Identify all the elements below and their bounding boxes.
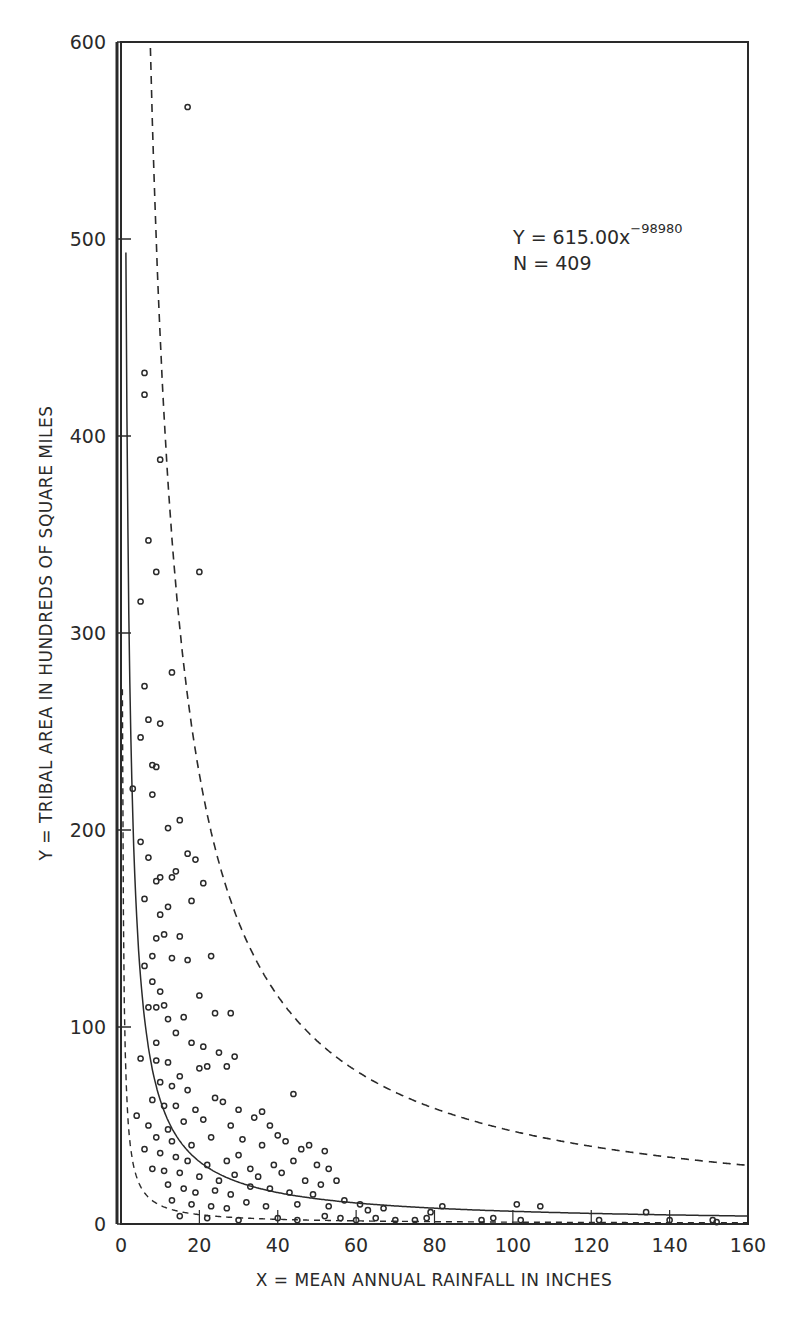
- data-point: [310, 1192, 315, 1197]
- data-points: [130, 104, 719, 1224]
- data-point: [193, 1190, 198, 1195]
- x-tick-label: 100: [495, 1234, 531, 1256]
- data-point: [267, 1123, 272, 1128]
- data-point: [596, 1217, 601, 1222]
- x-tick-label: 60: [344, 1234, 368, 1256]
- data-point: [314, 1162, 319, 1167]
- data-point: [224, 1206, 229, 1211]
- data-point: [162, 932, 167, 937]
- data-point: [514, 1202, 519, 1207]
- data-point: [181, 1015, 186, 1020]
- data-point: [189, 1143, 194, 1148]
- data-point: [224, 1158, 229, 1163]
- data-point: [142, 684, 147, 689]
- x-axis-ticks: 020406080100120140160: [115, 1210, 766, 1256]
- data-point: [177, 1214, 182, 1219]
- data-point: [146, 1123, 151, 1128]
- regression-fit-curve: [126, 253, 748, 1216]
- data-point: [424, 1215, 429, 1220]
- data-point: [173, 1154, 178, 1159]
- data-point: [158, 989, 163, 994]
- data-point: [295, 1202, 300, 1207]
- data-point: [169, 1139, 174, 1144]
- equation-label: Y = 615.00x−98980: [512, 221, 683, 248]
- data-point: [271, 1162, 276, 1167]
- data-point: [240, 1137, 245, 1142]
- data-point: [189, 898, 194, 903]
- data-point: [248, 1166, 253, 1171]
- data-point: [154, 1005, 159, 1010]
- x-tick-label: 80: [422, 1234, 446, 1256]
- data-point: [322, 1149, 327, 1154]
- data-point: [165, 1127, 170, 1132]
- data-point: [303, 1178, 308, 1183]
- x-tick-label: 160: [730, 1234, 766, 1256]
- data-point: [146, 1005, 151, 1010]
- data-point: [283, 1139, 288, 1144]
- data-point: [197, 569, 202, 574]
- x-tick-label: 120: [573, 1234, 609, 1256]
- data-point: [158, 457, 163, 462]
- y-axis-title: Y = TRIBAL AREA IN HUNDREDS OF SQUARE MI…: [36, 406, 56, 862]
- data-point: [263, 1204, 268, 1209]
- y-tick-label: 100: [70, 1016, 106, 1038]
- data-point: [538, 1204, 543, 1209]
- data-point: [169, 1084, 174, 1089]
- data-point: [193, 857, 198, 862]
- data-point: [228, 1011, 233, 1016]
- data-point: [228, 1123, 233, 1128]
- data-point: [205, 1215, 210, 1220]
- data-point: [209, 1204, 214, 1209]
- data-point: [138, 599, 143, 604]
- data-point: [326, 1166, 331, 1171]
- data-point: [220, 1099, 225, 1104]
- data-point: [197, 1174, 202, 1179]
- data-point: [197, 993, 202, 998]
- data-point: [338, 1215, 343, 1220]
- data-point: [212, 1095, 217, 1100]
- data-point: [154, 1040, 159, 1045]
- data-point: [165, 1060, 170, 1065]
- x-tick-label: 140: [651, 1234, 687, 1256]
- data-point: [165, 904, 170, 909]
- data-point: [158, 912, 163, 917]
- plot-frame: [121, 42, 748, 1224]
- data-point: [162, 1003, 167, 1008]
- data-point: [279, 1170, 284, 1175]
- data-point: [162, 1168, 167, 1173]
- data-point: [373, 1215, 378, 1220]
- data-point: [138, 839, 143, 844]
- data-point: [307, 1143, 312, 1148]
- data-point: [165, 1182, 170, 1187]
- y-tick-label: 400: [70, 425, 106, 447]
- data-point: [150, 792, 155, 797]
- data-point: [185, 1158, 190, 1163]
- upper-bound-curve: [150, 48, 748, 1165]
- data-point: [197, 1066, 202, 1071]
- data-point: [232, 1172, 237, 1177]
- data-point: [165, 1017, 170, 1022]
- y-tick-label: 300: [70, 622, 106, 644]
- data-point: [244, 1200, 249, 1205]
- data-point: [259, 1109, 264, 1114]
- data-point: [318, 1182, 323, 1187]
- data-point: [150, 979, 155, 984]
- data-point: [193, 1107, 198, 1112]
- data-point: [275, 1133, 280, 1138]
- data-point: [154, 569, 159, 574]
- data-point: [212, 1188, 217, 1193]
- data-point: [169, 1198, 174, 1203]
- data-point: [173, 869, 178, 874]
- data-point: [134, 1113, 139, 1118]
- data-point: [326, 1204, 331, 1209]
- data-point: [291, 1091, 296, 1096]
- data-point: [209, 1135, 214, 1140]
- data-point: [142, 896, 147, 901]
- data-point: [189, 1040, 194, 1045]
- data-point: [142, 392, 147, 397]
- data-point: [365, 1208, 370, 1213]
- data-point: [169, 875, 174, 880]
- data-point: [185, 1087, 190, 1092]
- data-point: [259, 1143, 264, 1148]
- y-tick-label: 0: [94, 1213, 106, 1235]
